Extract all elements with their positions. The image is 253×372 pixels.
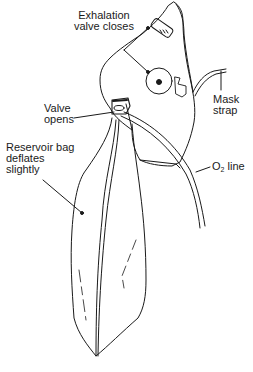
label-valve-opens: Valve opens xyxy=(44,103,74,125)
label-mask-strap: Mask strap xyxy=(213,94,239,116)
exhalation-valve-icon xyxy=(146,68,186,97)
label-o2-line: O2 line xyxy=(212,161,245,172)
label-exhalation-valve: Exhalation valve closes xyxy=(74,10,134,32)
nose-clip-icon xyxy=(150,18,174,39)
non-rebreather-mask-diagram xyxy=(0,0,253,372)
reservoir-bag xyxy=(71,118,146,356)
label-reservoir-bag: Reservoir bag deflates slightly xyxy=(6,142,74,175)
leader-exhalation-valve-2 xyxy=(124,50,148,72)
leader-valve-opens xyxy=(74,112,114,118)
inhalation-valve-icon xyxy=(112,98,130,114)
leader-o2-line xyxy=(196,167,210,172)
